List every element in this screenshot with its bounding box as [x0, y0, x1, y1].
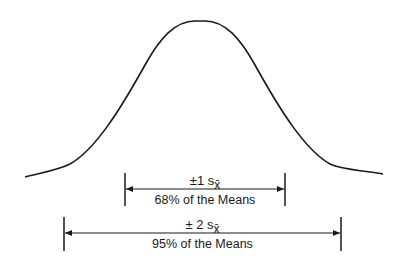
two-sd-top-label: ± 2 sx̄ [64, 218, 341, 236]
xbar-subscript: x̄ [214, 222, 220, 236]
two-sd-bottom-label: 95% of the Means [64, 237, 341, 251]
xbar-subscript: x̄ [214, 178, 220, 192]
one-sd-top-label: ±1 sx̄ [125, 174, 285, 192]
one-sd-bottom-label: 68% of the Means [125, 193, 285, 207]
two-sd-symbol: ± 2 s [185, 217, 213, 232]
one-sd-symbol: ±1 s [190, 173, 214, 188]
bell-curve [25, 21, 383, 177]
